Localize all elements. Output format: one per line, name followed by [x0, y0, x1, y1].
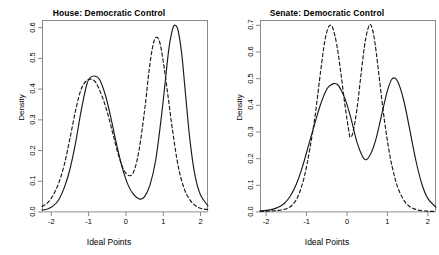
- plot-curves-house: [42, 20, 208, 212]
- x-tick-label: -1: [296, 217, 318, 226]
- x-tick-label: 2: [190, 217, 212, 226]
- y-tick-label: 0.1: [28, 170, 37, 192]
- y-tick-label: 0.6: [28, 16, 37, 38]
- y-axis-label-senate: Density: [235, 78, 244, 138]
- density-curve-solid: [42, 25, 208, 210]
- x-tick-label: 1: [376, 217, 398, 226]
- y-tick-label: 0.6: [246, 41, 255, 63]
- y-tick-label: 0.3: [28, 108, 37, 130]
- y-tick-label: 0.7: [246, 14, 255, 36]
- y-tick-label: 0.4: [28, 78, 37, 100]
- x-axis-label-senate: Ideal Points: [218, 237, 436, 247]
- x-tick-label: 0: [336, 217, 358, 226]
- x-tick-label: -1: [78, 217, 100, 226]
- y-tick-label: 0.4: [246, 94, 255, 116]
- panel-senate: Senate: Democratic Control Density Ideal…: [218, 0, 436, 255]
- panel-house: House: Democratic Control Density Ideal …: [0, 0, 218, 255]
- y-tick-label: 0.2: [246, 147, 255, 169]
- x-tick-label: 0: [115, 217, 137, 226]
- y-axis-label-house: Density: [17, 78, 26, 138]
- x-tick-label: -2: [40, 217, 62, 226]
- x-tick-label: -2: [255, 217, 277, 226]
- plot-curves-senate: [260, 20, 436, 212]
- y-tick-label: 0.5: [28, 47, 37, 69]
- x-axis-label-house: Ideal Points: [0, 237, 218, 247]
- y-tick-label: 0.1: [246, 174, 255, 196]
- density-curve-solid: [260, 78, 436, 211]
- y-tick-label: 0.0: [246, 201, 255, 223]
- y-tick-label: 0.5: [246, 67, 255, 89]
- y-tick-label: 0.2: [28, 139, 37, 161]
- y-tick-label: 0.3: [246, 121, 255, 143]
- x-tick-label: 2: [417, 217, 439, 226]
- y-tick-label: 0.0: [28, 201, 37, 223]
- x-tick-label: 1: [152, 217, 174, 226]
- density-curve-dashed: [260, 24, 436, 211]
